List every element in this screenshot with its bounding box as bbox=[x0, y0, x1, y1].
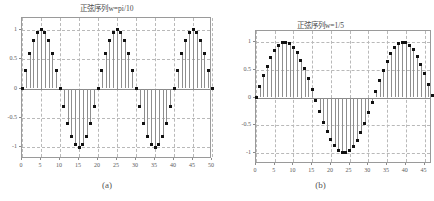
panel-a-data-point bbox=[36, 31, 39, 34]
panel-b-data-point bbox=[374, 90, 377, 93]
panel-a-y-tick-label: 0 bbox=[0, 85, 17, 91]
panel-b-stem-line bbox=[297, 53, 298, 98]
panel-b-data-point bbox=[404, 41, 407, 44]
panel-a-stem-line bbox=[87, 89, 88, 137]
panel-b-gridline-vertical bbox=[331, 31, 332, 162]
panel-b-data-point bbox=[269, 56, 272, 59]
panel-a-x-tick-label: 5 bbox=[39, 162, 42, 168]
panel-a-data-point bbox=[165, 122, 168, 125]
panel-b-stem-line bbox=[323, 98, 324, 123]
panel-a-data-point bbox=[150, 143, 153, 146]
panel-a-data-point bbox=[32, 39, 35, 42]
panel-b-stem-line bbox=[346, 98, 347, 153]
panel-a-stem-line bbox=[204, 54, 205, 89]
panel-b-y-tick bbox=[253, 152, 255, 153]
panel-a-stem-line bbox=[121, 33, 122, 89]
panel-a-data-point bbox=[81, 143, 84, 146]
panel-a-data-point bbox=[173, 87, 176, 90]
panel-a-data-point bbox=[97, 87, 100, 90]
panel-b-stem-line bbox=[380, 80, 381, 97]
panel-b-stem-line bbox=[387, 61, 388, 97]
panel-b-stem-line bbox=[331, 98, 332, 140]
panel-b-x-tick bbox=[424, 163, 425, 165]
panel-a-stem-line bbox=[185, 41, 186, 89]
panel-b-y-tick bbox=[253, 69, 255, 70]
panel-a-data-point bbox=[74, 143, 77, 146]
panel-b-title: 正弦序列w=1/5 bbox=[214, 19, 427, 30]
panel-a-stem-line bbox=[94, 89, 95, 107]
panel-b-data-point bbox=[363, 122, 366, 125]
panel-a-stem-line bbox=[178, 70, 179, 88]
panel-b-stem-line bbox=[395, 48, 396, 98]
panel-a-data-point bbox=[123, 39, 126, 42]
panel-b-caption: (b) bbox=[214, 180, 427, 190]
panel-b-stem-line bbox=[428, 84, 429, 97]
panel-a-stem-line bbox=[132, 70, 133, 88]
panel-b-stem-line bbox=[398, 44, 399, 98]
panel-a-stem-line bbox=[106, 54, 107, 89]
panel-a-data-point bbox=[199, 39, 202, 42]
panel-b-stem-line bbox=[425, 74, 426, 98]
panel-a-stem-line bbox=[102, 70, 103, 88]
panel-b-stem-line bbox=[286, 42, 287, 97]
panel-a-stem-line bbox=[71, 89, 72, 137]
panel-a-y-tick bbox=[19, 146, 21, 147]
panel-a-x-tick-label: 30 bbox=[132, 162, 138, 168]
panel-a-data-point bbox=[154, 146, 157, 149]
panel-a-data-point bbox=[62, 105, 65, 108]
panel-b-stem-line bbox=[263, 76, 264, 98]
panel-b-stem-line bbox=[301, 60, 302, 97]
panel-a-data-point bbox=[157, 143, 160, 146]
panel-a-stem-line bbox=[30, 54, 31, 89]
panel-b-x-tick bbox=[274, 163, 275, 165]
panel-a-title: 正弦序列w=pi/10 bbox=[0, 2, 214, 13]
panel-b-stem-line bbox=[271, 58, 272, 98]
panel-a-stem-line bbox=[128, 54, 129, 89]
panel-a-stem-line bbox=[83, 89, 84, 145]
panel-b-data-point bbox=[378, 79, 381, 82]
panel-a-x-tick-label: 40 bbox=[170, 162, 176, 168]
panel-b-x-tick bbox=[255, 163, 256, 165]
panel-a-data-point bbox=[93, 105, 96, 108]
panel-a-x-tick bbox=[40, 158, 41, 160]
panel-b-data-point bbox=[288, 42, 291, 45]
panel-a-data-point bbox=[59, 87, 62, 90]
panel-a-data-point bbox=[89, 122, 92, 125]
panel-b-stem-line bbox=[417, 56, 418, 97]
panel-b-y-tick-label: -0.5 bbox=[233, 121, 251, 127]
panel-b-stem-line bbox=[406, 43, 407, 98]
panel-b-stem-line bbox=[338, 98, 339, 151]
panel-a-data-point bbox=[66, 122, 69, 125]
panel-a-data-point bbox=[169, 105, 172, 108]
panel-b-data-point bbox=[318, 110, 321, 113]
panel-a-data-point bbox=[135, 87, 138, 90]
panel-a-stem-line bbox=[64, 89, 65, 107]
panel-a-data-point bbox=[188, 31, 191, 34]
panel-b-data-point bbox=[273, 49, 276, 52]
panel-a-y-tick-label: -0.5 bbox=[0, 114, 17, 120]
panel-b-data-point bbox=[386, 60, 389, 63]
panel-b-stem-line bbox=[260, 86, 261, 97]
panel-b-data-point bbox=[341, 151, 344, 154]
panel-a-x-tick-label: 35 bbox=[151, 162, 157, 168]
panel-a-stem-line bbox=[201, 41, 202, 89]
panel-a-caption: (a) bbox=[0, 180, 214, 190]
panel-b-stem-line bbox=[308, 79, 309, 98]
panel-b-data-point bbox=[359, 131, 362, 134]
panel-b-data-point bbox=[423, 72, 426, 75]
panel-b-stem-line bbox=[402, 42, 403, 97]
panel-b-x-tick bbox=[330, 163, 331, 165]
panel-a-x-tick bbox=[97, 158, 98, 160]
panel-a-data-point bbox=[112, 31, 115, 34]
panel-b-data-point bbox=[337, 149, 340, 152]
panel-b-data-point bbox=[326, 130, 329, 133]
panel-b-data-point bbox=[281, 41, 284, 44]
panel-b-x-tick bbox=[349, 163, 350, 165]
panel-b-stem-line bbox=[335, 98, 336, 146]
panel-b-stem-line bbox=[293, 47, 294, 97]
panel-a-stem-line bbox=[52, 54, 53, 89]
panel-b-stem-line bbox=[305, 69, 306, 98]
panel-a-x-tick bbox=[135, 158, 136, 160]
panel-a-stem-line bbox=[155, 89, 156, 148]
panel-b-data-point bbox=[401, 41, 404, 44]
